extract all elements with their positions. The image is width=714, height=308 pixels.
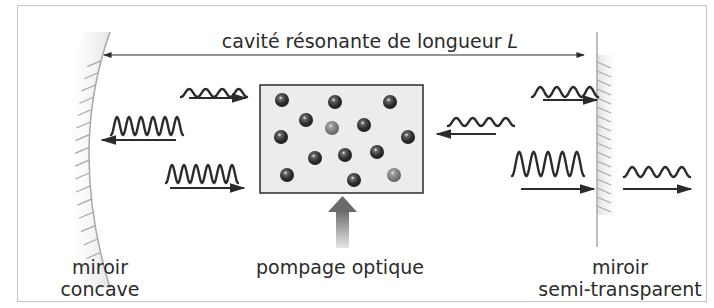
atom [299,113,313,127]
left-mirror-label-line1: miroir [40,256,160,278]
wave-mid-right-weak [437,118,514,134]
semi-transparent-mirror [597,32,621,247]
cavity-title-text: cavité résonante de longueur [222,30,502,52]
wave-bottom-right-strong [512,152,594,189]
pump-label: pompage optique [240,256,440,278]
atom [383,95,397,109]
right-mirror-label-line1: miroir [530,256,710,278]
left-mirror-label-line2: concave [40,278,160,300]
atom [328,95,342,109]
wave-bottom-left-strong [166,165,244,188]
wave-top-left-weak [181,89,247,98]
wave-output-weak [623,167,691,189]
left-mirror-label: miroir concave [40,256,160,300]
cavity-title: cavité résonante de longueur L [200,30,540,52]
atom [370,145,384,159]
wave-top-right-weak [532,87,598,100]
atom [280,168,294,182]
cavity-length-variable: L [508,30,519,52]
concave-mirror [63,32,110,288]
atom [357,118,371,132]
pump-arrow [328,196,357,248]
atom [274,130,288,144]
atom [308,151,322,165]
atom [347,173,361,187]
excited-atom [387,168,401,182]
atom [338,148,352,162]
right-mirror-label-line2: semi-transparent [530,278,710,300]
wave-mid-left-strong [102,117,183,140]
right-mirror-label: miroir semi-transparent [530,256,710,300]
atom [275,93,289,107]
atom [401,130,415,144]
excited-atom [325,121,339,135]
